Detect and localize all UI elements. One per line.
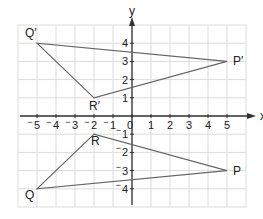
minus-sign: − bbox=[65, 117, 70, 127]
minus-sign: − bbox=[27, 117, 32, 127]
y-tick-label: 3 bbox=[122, 55, 128, 67]
minus-sign: − bbox=[84, 117, 89, 127]
vertex-label: Q′ bbox=[25, 26, 37, 40]
y-tick-label: 1 bbox=[122, 128, 128, 140]
y-axis-label: y bbox=[129, 4, 135, 18]
vertex-label: Q bbox=[25, 188, 34, 202]
minus-sign: − bbox=[103, 117, 108, 127]
vertex-label: R′ bbox=[89, 99, 101, 113]
x-tick-label: 2 bbox=[91, 119, 97, 131]
minus-sign: − bbox=[116, 125, 121, 135]
minus-sign: − bbox=[116, 143, 121, 153]
x-tick-label: 5 bbox=[224, 119, 230, 131]
y-tick-label: 1 bbox=[122, 92, 128, 104]
x-tick-label: 4 bbox=[205, 119, 211, 131]
vertex-label: P′ bbox=[233, 54, 244, 68]
x-axis-arrow-icon bbox=[247, 113, 256, 119]
x-tick-label: 2 bbox=[167, 119, 173, 131]
y-tick-label: 4 bbox=[122, 183, 128, 195]
y-tick-label: 2 bbox=[122, 74, 128, 86]
x-tick-label: 3 bbox=[186, 119, 192, 131]
x-tick-label: 5 bbox=[34, 119, 40, 131]
x-axis-label: x bbox=[260, 109, 263, 123]
x-tick-label: 4 bbox=[53, 119, 59, 131]
y-axis-arrow-icon bbox=[129, 17, 135, 26]
y-tick-label: 4 bbox=[122, 37, 128, 49]
y-tick-label: 2 bbox=[122, 146, 128, 158]
x-tick-label: 1 bbox=[148, 119, 154, 131]
coordinate-grid-diagram: xy 5−4−3−2−1−01234543211−2−3−4− PQRP′Q′R… bbox=[0, 0, 263, 219]
vertex-label: P bbox=[233, 164, 241, 178]
vertex-label: R bbox=[91, 134, 100, 148]
y-tick-label: 3 bbox=[122, 165, 128, 177]
minus-sign: − bbox=[116, 162, 121, 172]
minus-sign: − bbox=[46, 117, 51, 127]
x-tick-label: 3 bbox=[72, 119, 78, 131]
